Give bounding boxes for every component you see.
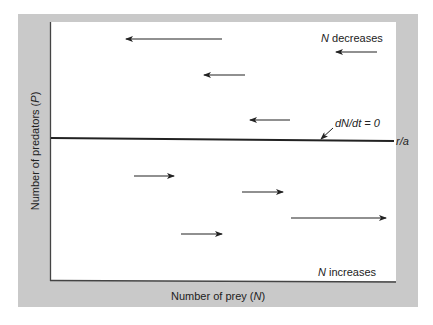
isocline-pointer-arrow [321,128,333,139]
isocline-intercept-label: r/a [396,135,409,147]
vector-arrows [126,39,386,234]
x-axis-label: Number of prey (N) [171,290,265,302]
y-axis-label: Number of predators (P) [29,86,41,216]
x-axis [50,281,396,283]
region-label-top: N decreases [321,32,383,44]
isocline-line [51,138,394,141]
isocline-label: dN/dt = 0 [335,117,380,129]
region-label-bottom: N increases [318,266,376,278]
